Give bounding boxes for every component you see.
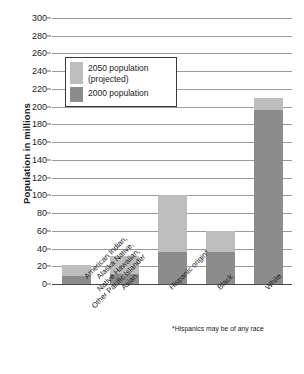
- y-tick-mark-60: [47, 230, 51, 231]
- y-tick-mark-180: [47, 124, 51, 125]
- y-tick-label-20: 20: [37, 262, 47, 271]
- chart-footnote: *Hispanics may be of any race: [172, 325, 264, 333]
- y-tick-mark-100: [47, 195, 51, 196]
- legend-swatch-2050: [70, 62, 83, 84]
- y-tick-mark-0: [47, 284, 51, 285]
- y-tick-mark-300: [47, 18, 51, 19]
- chart-legend: 2050 population (projected) 2000 populat…: [65, 57, 177, 107]
- y-tick-mark-20: [47, 266, 51, 267]
- y-tick-label-100: 100: [32, 191, 47, 200]
- y-tick-label-240: 240: [32, 67, 47, 76]
- legend-item-2000: 2000 population: [70, 87, 171, 102]
- y-tick-label-200: 200: [32, 102, 47, 111]
- y-tick-mark-200: [47, 106, 51, 107]
- y-tick-mark-240: [47, 71, 51, 72]
- y-tick-label-180: 180: [32, 120, 47, 129]
- y-tick-mark-80: [47, 213, 51, 214]
- bar-segment-2000: [254, 110, 283, 284]
- y-tick-label-160: 160: [32, 138, 47, 147]
- y-tick-mark-160: [47, 142, 51, 143]
- y-tick-label-120: 120: [32, 173, 47, 182]
- y-tick-mark-260: [47, 53, 51, 54]
- y-tick-label-280: 280: [32, 31, 47, 40]
- y-tick-mark-140: [47, 159, 51, 160]
- y-tick-mark-40: [47, 248, 51, 249]
- y-tick-label-60: 60: [37, 226, 47, 235]
- y-tick-mark-120: [47, 177, 51, 178]
- legend-item-2050: 2050 population (projected): [70, 62, 171, 84]
- legend-label-2050: 2050 population (projected): [88, 62, 149, 84]
- population-bar-chart: Population in millions 02040608010012014…: [0, 0, 304, 374]
- y-tick-label-80: 80: [37, 209, 47, 218]
- y-tick-mark-280: [47, 35, 51, 36]
- y-tick-label-220: 220: [32, 84, 47, 93]
- bar-group: [254, 98, 283, 284]
- y-tick-label-40: 40: [37, 244, 47, 253]
- y-tick-label-140: 140: [32, 155, 47, 164]
- legend-label-2000: 2000 population: [88, 87, 149, 99]
- y-tick-label-260: 260: [32, 49, 47, 58]
- y-tick-mark-220: [47, 88, 51, 89]
- y-axis-title: Population in millions: [21, 64, 32, 244]
- y-tick-label-300: 300: [32, 14, 47, 23]
- legend-swatch-2000: [70, 87, 83, 102]
